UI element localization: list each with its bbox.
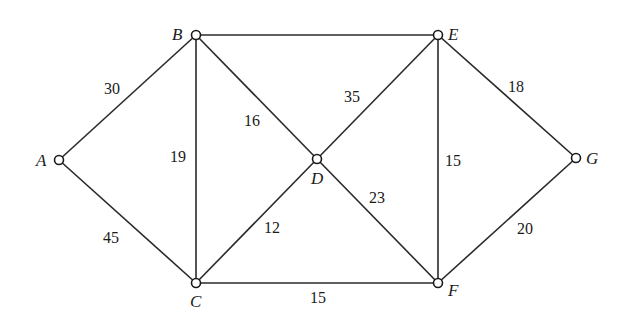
graph-diagram: 3045191612153523151820 ABCDEFG	[0, 0, 628, 323]
node-a	[55, 156, 64, 165]
node-label-b: B	[172, 25, 183, 44]
edge-weight-c-f: 15	[310, 289, 326, 306]
edge-weight-c-d: 12	[264, 219, 280, 236]
nodes-layer	[55, 31, 581, 288]
node-f	[434, 279, 443, 288]
node-label-d: D	[310, 169, 324, 188]
edge-weight-e-g: 18	[508, 78, 524, 95]
node-label-c: C	[190, 292, 202, 311]
edge-weight-f-g: 20	[517, 220, 533, 237]
edge-a-c	[59, 160, 196, 283]
node-e	[434, 31, 443, 40]
node-label-f: F	[447, 281, 459, 300]
edge-d-f	[317, 159, 438, 283]
edge-c-d	[196, 159, 317, 283]
node-labels-layer: ABCDEFG	[35, 25, 598, 311]
edge-e-g	[438, 35, 576, 158]
edge-f-g	[438, 158, 576, 283]
edge-weight-b-d: 16	[244, 112, 260, 129]
edge-weights-layer: 3045191612153523151820	[103, 78, 533, 306]
node-g	[572, 154, 581, 163]
edge-d-e	[317, 35, 438, 159]
edge-weight-b-c: 19	[170, 148, 186, 165]
edge-weight-d-f: 23	[369, 189, 385, 206]
node-label-e: E	[447, 25, 459, 44]
node-c	[192, 279, 201, 288]
node-b	[192, 31, 201, 40]
edge-weight-d-e: 35	[344, 88, 360, 105]
edge-weight-e-f: 15	[445, 152, 461, 169]
edge-weight-a-c: 45	[103, 229, 119, 246]
node-label-a: A	[35, 151, 47, 170]
edge-a-b	[59, 35, 196, 160]
edge-weight-a-b: 30	[104, 80, 120, 97]
edge-b-d	[196, 35, 317, 159]
node-label-g: G	[586, 149, 598, 168]
node-d	[313, 155, 322, 164]
